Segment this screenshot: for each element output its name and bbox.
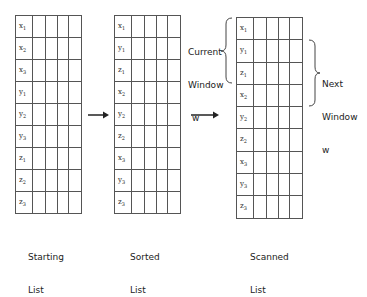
sorted-list-caption: Sorted List bbox=[130, 230, 160, 297]
caption-line1: Sorted bbox=[130, 252, 160, 263]
arrow-right-icon bbox=[88, 112, 109, 119]
caption-line2: List bbox=[130, 285, 160, 296]
next-window-line1: Next bbox=[322, 79, 358, 90]
caption-line2: List bbox=[250, 285, 289, 296]
next-window-line3: w bbox=[322, 145, 358, 156]
next-window-line2: Window bbox=[322, 112, 358, 123]
current-window-label: Current Window w bbox=[188, 25, 224, 135]
scanned-list-caption: Scanned List bbox=[250, 230, 289, 297]
caption-line2: List bbox=[28, 285, 64, 296]
right-brace-icon bbox=[309, 40, 320, 106]
caption-line1: Starting bbox=[28, 252, 64, 263]
current-window-line3: w bbox=[188, 113, 224, 124]
current-window-line2: Window bbox=[188, 80, 224, 91]
next-window-label: Next Window w bbox=[322, 57, 358, 167]
caption-line1: Scanned bbox=[250, 252, 289, 263]
starting-list-caption: Starting List bbox=[28, 230, 64, 297]
current-window-line1: Current bbox=[188, 47, 224, 58]
